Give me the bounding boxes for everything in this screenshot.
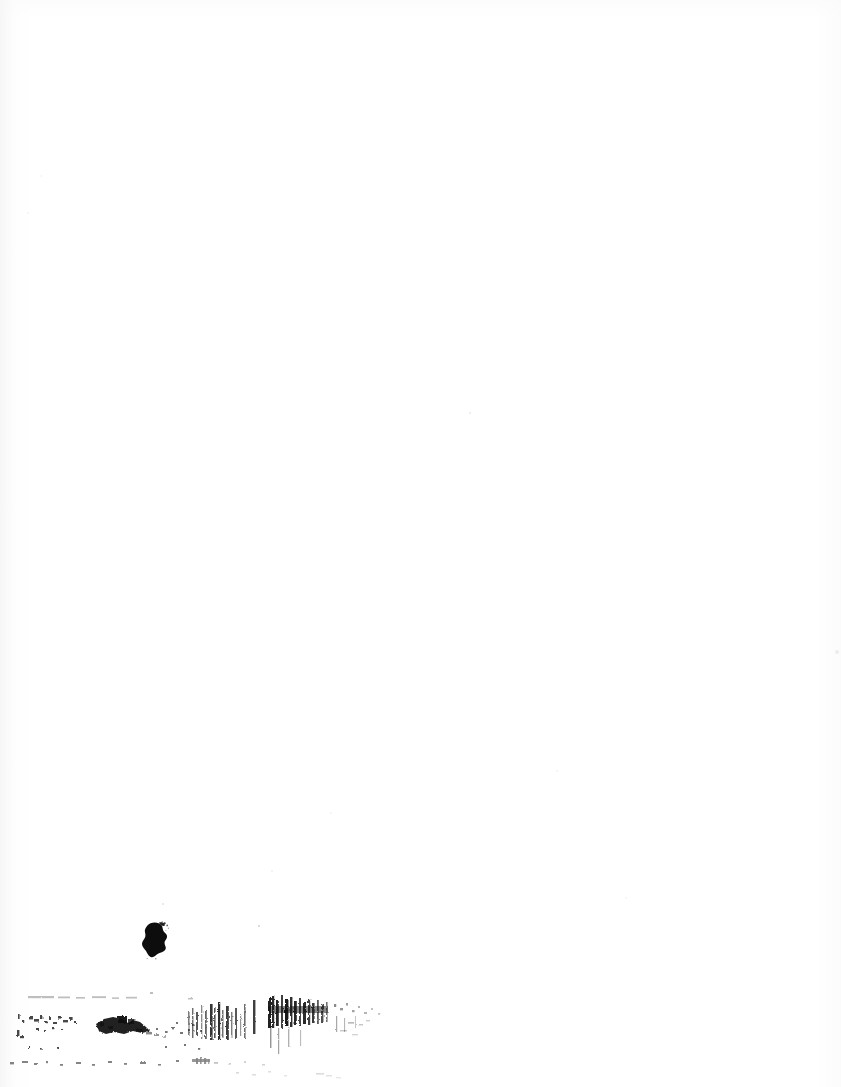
scanned-page: Blank scanned page — no printed text con… — [0, 0, 841, 1087]
page-content-area: Blank scanned page — no printed text con… — [0, 0, 841, 1087]
ink-blot-icon — [141, 921, 173, 961]
ink-blot-artifact — [141, 921, 173, 961]
